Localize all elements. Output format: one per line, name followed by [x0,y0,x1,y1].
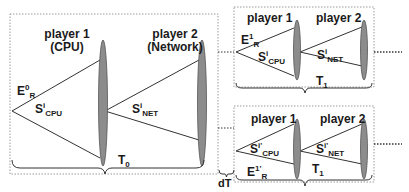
main-player1-label: player 1 (CPU) [32,28,102,54]
top-player2-ellipse [361,20,368,80]
top-period-brace [236,83,372,93]
main-player1-ellipse [99,40,108,166]
bottom-player1-ellipse [294,119,301,179]
bottom-player2-ellipse [361,119,368,179]
bottom-player2-label: player 2 [320,113,365,126]
offset-brace [219,170,234,177]
top-S-net-label: SiNET [317,45,343,66]
bottom-period-label: T1 [312,163,324,180]
main-player1-subtitle: (CPU) [32,41,102,54]
main-period-brace [12,160,204,174]
main-player2-ellipse [198,40,207,166]
top-player2-label: player 2 [316,12,361,25]
top-player1-ellipse [294,20,301,80]
top-player1-label: player 1 [247,12,292,25]
bottom-E-label: E1'R [247,162,267,183]
main-S-cpu-label: SiCPU [35,99,62,120]
top-S-cpu-label: SiCPU [258,47,285,68]
offset-label: dT [218,177,231,190]
top-period-label: T1 [316,75,328,92]
main-player2-label: player 2 (Network) [140,28,210,54]
bottom-player1-label: player 1 [251,113,296,126]
main-E-label: E0R [17,81,35,102]
main-player2-subtitle: (Network) [140,41,210,54]
main-period-label: T0 [118,154,130,171]
top-E-label: E1R [241,30,259,51]
main-S-net-label: SiNET [132,99,158,120]
bottom-S-net-label: Si'NET [316,139,344,160]
bottom-S-cpu-label: Si'CPU [250,139,279,160]
